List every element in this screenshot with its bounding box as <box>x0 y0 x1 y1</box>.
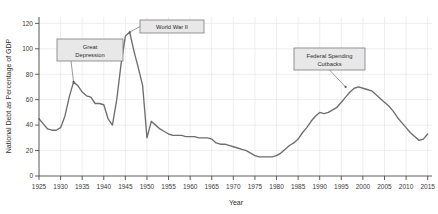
x-tick-label: 1995 <box>334 183 349 190</box>
x-tick-label: 1980 <box>269 183 284 190</box>
annotation-label-line1: World War II <box>156 24 188 30</box>
x-tick-label: 1985 <box>291 183 306 190</box>
chart-background <box>0 0 438 214</box>
annotation-anchor-dot <box>129 31 131 33</box>
chart-container: 020406080100120 192519301935194019451950… <box>0 0 438 214</box>
annotation-label-line1: Federal Spending <box>307 53 353 59</box>
annotation-anchor-dot <box>72 81 74 83</box>
annotation-label-line2: Cutbacks <box>317 61 341 67</box>
x-tick-label: 2000 <box>356 183 371 190</box>
y-tick-label: 100 <box>22 45 33 52</box>
debt-gdp-line-chart: 020406080100120 192519301935194019451950… <box>0 0 438 214</box>
annotation-box <box>294 48 365 70</box>
x-tick-label: 1965 <box>205 183 220 190</box>
x-tick-label: 1925 <box>32 183 47 190</box>
x-tick-label: 1955 <box>161 183 176 190</box>
x-tick-label: 1960 <box>183 183 198 190</box>
annotation-label-line2: Depression <box>75 52 104 58</box>
annotation-box <box>57 39 123 61</box>
x-tick-label: 1930 <box>53 183 68 190</box>
y-tick-label: 40 <box>26 121 34 128</box>
x-tick-label: 1975 <box>248 183 263 190</box>
y-tick-label: 60 <box>26 96 34 103</box>
x-tick-label: 1935 <box>75 183 90 190</box>
x-tick-label: 2010 <box>399 183 414 190</box>
x-tick-label: 2015 <box>420 183 435 190</box>
annotation-label-line1: Great <box>83 44 98 50</box>
x-tick-label: 2005 <box>377 183 392 190</box>
x-tick-label: 1940 <box>97 183 112 190</box>
x-axis-title: Year <box>229 199 244 206</box>
y-tick-label: 20 <box>26 147 34 154</box>
y-tick-label: 80 <box>26 71 34 78</box>
annotation-anchor-dot <box>345 86 347 88</box>
y-tick-label: 120 <box>22 20 33 27</box>
x-tick-label: 1970 <box>226 183 241 190</box>
x-tick-label: 1990 <box>312 183 327 190</box>
y-axis-title: National Debt as Percentage of GDP <box>5 38 13 153</box>
x-tick-label: 1950 <box>140 183 155 190</box>
y-tick-label: 0 <box>29 172 33 179</box>
annotation-world-war-ii: World War II <box>129 20 204 33</box>
x-tick-label: 1945 <box>118 183 133 190</box>
